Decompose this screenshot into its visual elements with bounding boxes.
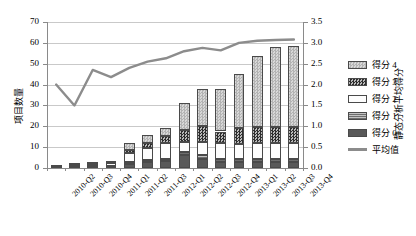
- y2-tick-mark: [304, 85, 308, 86]
- y-tick-label: 50: [13, 59, 39, 68]
- y2-tick-label: 0.5: [311, 142, 337, 151]
- legend-item[interactable]: 得分 3: [348, 73, 414, 90]
- x-tick-mark: [212, 168, 213, 171]
- y-tick-label: 0: [13, 163, 39, 172]
- legend-item[interactable]: 得分 4: [348, 56, 414, 73]
- x-tick-mark: [138, 168, 139, 171]
- x-tick-mark: [175, 168, 176, 171]
- x-tick-mark: [266, 168, 267, 171]
- legend-item[interactable]: 得分 0: [348, 124, 414, 141]
- legend-item[interactable]: 得分 1: [348, 107, 414, 124]
- y2-tick-label: 0.0: [311, 163, 337, 172]
- y2-tick-mark: [304, 105, 308, 106]
- y2-tick-mark: [304, 168, 308, 169]
- y-tick-label: 10: [13, 142, 39, 151]
- y-tick-label: 60: [13, 38, 39, 47]
- average-line: [47, 22, 303, 168]
- legend-label: 得分 1: [372, 109, 397, 122]
- y2-tick-mark: [304, 126, 308, 127]
- y-axis-right: [303, 22, 304, 168]
- x-tick-mark: [230, 168, 231, 171]
- x-tick-mark: [157, 168, 158, 171]
- chart-legend: 得分 4得分 3得分 2得分 1得分 0平均值: [348, 56, 414, 158]
- y2-tick-label: 2.0: [311, 80, 337, 89]
- legend-label: 得分 0: [372, 126, 397, 139]
- y2-tick-mark: [304, 22, 308, 23]
- y2-tick-mark: [304, 147, 308, 148]
- legend-label: 得分 4: [372, 58, 397, 71]
- y-axis-left-title: 项目数量: [12, 88, 25, 124]
- legend-label: 平均值: [372, 143, 399, 156]
- legend-color-swatch: [348, 95, 367, 103]
- y2-tick-label: 3.5: [311, 17, 337, 26]
- y2-tick-label: 2.5: [311, 59, 337, 68]
- x-tick-mark: [248, 168, 249, 171]
- y-tick-label: 70: [13, 17, 39, 26]
- chart-container: 010203040506070 0.00.51.01.52.02.53.03.5…: [0, 0, 416, 236]
- y2-tick-mark: [304, 64, 308, 65]
- x-tick-mark: [120, 168, 121, 171]
- y2-tick-label: 1.0: [311, 121, 337, 130]
- x-tick-mark: [84, 168, 85, 171]
- y2-tick-mark: [304, 43, 308, 44]
- legend-label: 得分 2: [372, 92, 397, 105]
- x-tick-mark: [285, 168, 286, 171]
- x-tick-mark: [102, 168, 103, 171]
- legend-item[interactable]: 平均值: [348, 141, 414, 158]
- x-tick-mark: [303, 168, 304, 171]
- legend-label: 得分 3: [372, 75, 397, 88]
- x-tick-mark: [65, 168, 66, 171]
- y2-tick-label: 3.0: [311, 38, 337, 47]
- y2-tick-label: 1.5: [311, 100, 337, 109]
- x-tick-mark: [47, 168, 48, 171]
- legend-color-swatch: [348, 112, 367, 120]
- legend-item[interactable]: 得分 2: [348, 90, 414, 107]
- legend-color-swatch: [348, 129, 367, 137]
- legend-line-swatch: [348, 148, 367, 151]
- x-tick-mark: [193, 168, 194, 171]
- legend-color-swatch: [348, 78, 367, 86]
- legend-color-swatch: [348, 61, 367, 69]
